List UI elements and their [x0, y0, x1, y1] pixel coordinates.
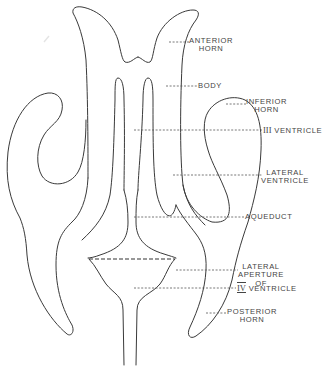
aqueduct-left-wall	[88, 190, 128, 258]
fourth-ventricle-word: VENTRICLE	[249, 284, 297, 293]
label-body: BODY	[198, 82, 222, 90]
third-ventricle-word: VENTRICLE	[274, 126, 322, 135]
ventricular-system-diagram	[0, 0, 327, 377]
label-posterior-horn: POSTERIOR HORN	[227, 308, 277, 325]
label-aqueduct: AQUEDUCT	[245, 213, 292, 221]
label-body-line1: BODY	[198, 82, 222, 90]
fourth-ventricle-left-wall	[89, 259, 124, 365]
aqueduct-right-wall	[136, 190, 176, 258]
left-posterior-horn-outline	[7, 93, 88, 335]
fourth-ventricle-right-wall	[136, 259, 175, 365]
smudge-mark	[44, 36, 49, 42]
label-inferior-horn-line2: HORN	[246, 106, 287, 114]
label-inferior-horn: INFERIOR HORN	[246, 98, 287, 115]
label-aqueduct-line1: AQUEDUCT	[245, 213, 292, 221]
label-lateral-ventricle-line2: VENTRICLE	[261, 177, 309, 185]
label-fourth-ventricle: IV VENTRICLE	[237, 284, 297, 293]
label-anterior-horn: ANTERIOR HORN	[189, 37, 233, 54]
fourth-ventricle-numeral: IV	[237, 283, 246, 293]
label-anterior-horn-line2: HORN	[189, 45, 233, 53]
label-third-ventricle: III VENTRICLE	[263, 126, 322, 135]
third-ventricle-numeral: III	[263, 125, 272, 135]
left-lateral-ventricle-outline	[73, 7, 138, 178]
label-lateral-ventricle: LATERAL VENTRICLE	[261, 169, 309, 186]
right-thalamic-lobe-outline	[138, 78, 176, 216]
label-posterior-horn-line2: HORN	[227, 316, 277, 324]
